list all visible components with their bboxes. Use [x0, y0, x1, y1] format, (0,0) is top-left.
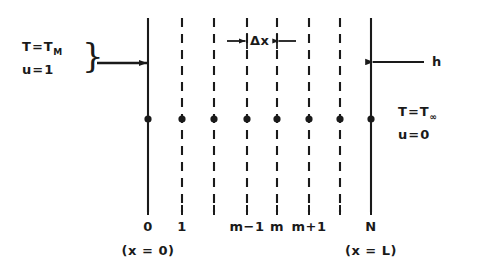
node-dot: [305, 115, 312, 122]
right-boundary-condition: T=T∞ u=0: [398, 103, 437, 143]
position-label-x-equals-L: (x = L): [345, 243, 397, 258]
right-bc-u-value: 0: [420, 127, 430, 142]
left-bc-u-equals: =: [32, 62, 44, 77]
left-bc-T-prefix: T: [22, 39, 32, 54]
right-bc-u-line: u=0: [398, 126, 437, 143]
node-dot: [336, 115, 343, 122]
right-bc-u-equals: =: [408, 127, 420, 142]
left-bc-T-subscript: M: [53, 47, 62, 57]
node-index-label-1: 1: [177, 219, 187, 234]
node-dot: [273, 115, 280, 122]
convection-coefficient-label: h: [432, 54, 442, 69]
right-bc-u-prefix: u: [398, 127, 408, 142]
node-index-label-m-plus-1: m+1: [292, 219, 327, 234]
left-bc-T-symbol: T: [44, 39, 53, 54]
left-bc-equals: =: [32, 39, 44, 54]
position-label-x-equals-0: (x = 0): [122, 243, 175, 258]
left-boundary-condition: T=TM u=1: [22, 38, 62, 78]
right-bc-T-prefix: T: [398, 104, 408, 119]
node-dot: [178, 115, 185, 122]
node-index-label-m: m: [270, 219, 284, 234]
left-bc-u-prefix: u: [22, 62, 32, 77]
node-index-label-m-minus-1: m−1: [230, 219, 265, 234]
left-bc-u-line: u=1: [22, 61, 62, 78]
left-bc-temperature-line: T=TM: [22, 38, 62, 61]
node-dot: [367, 115, 374, 122]
index-ticks: [148, 205, 371, 215]
delta-x-label: Δx: [250, 33, 269, 48]
right-bc-temperature-line: T=T∞: [398, 103, 437, 126]
finite-difference-grid-figure: T=TM u=1 } Δx h T=T∞ u=0 0 1 m−1 m m+1 N…: [0, 0, 491, 270]
node-dot: [210, 115, 217, 122]
node-dots: [144, 115, 374, 122]
node-dot: [243, 115, 250, 122]
node-index-label-N: N: [365, 219, 376, 234]
node-index-label-0: 0: [143, 219, 153, 234]
right-bc-T-symbol: T: [420, 104, 429, 119]
right-bc-equals: =: [408, 104, 420, 119]
right-bc-T-subscript: ∞: [429, 112, 437, 122]
left-boundary-brace: }: [82, 38, 104, 72]
left-bc-u-value: 1: [44, 62, 54, 77]
node-dot: [144, 115, 151, 122]
